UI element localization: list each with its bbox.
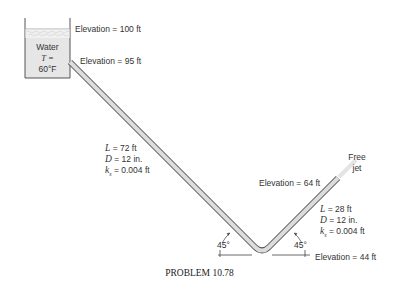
tank-temp-label: T = bbox=[25, 53, 70, 64]
angle-right-label: 45° bbox=[294, 240, 307, 250]
pipe1-diameter: D = 12 in. bbox=[105, 154, 142, 164]
tank-fluid-label: Water bbox=[25, 42, 70, 53]
pipe1-length: L = 72 ft bbox=[105, 143, 137, 153]
free-jet-label-line1: Free bbox=[344, 152, 370, 162]
angle-left-label: 45° bbox=[217, 240, 230, 250]
pipe2-roughness: ks = 0.004 ft bbox=[320, 226, 365, 240]
problem-caption: PROBLEM 10.78 bbox=[0, 268, 399, 278]
elevation-pipe-exit: Elevation = 64 ft bbox=[259, 178, 320, 188]
elevation-pipe-bottom: Elevation = 44 ft bbox=[315, 252, 376, 262]
pipe1-roughness: ks = 0.004 ft bbox=[105, 165, 150, 179]
elevation-water-surface: Elevation = 100 ft bbox=[75, 24, 141, 34]
elevation-pipe-entrance: Elevation = 95 ft bbox=[80, 56, 141, 66]
pipe2-length: L = 28 ft bbox=[320, 204, 352, 214]
free-jet-label-line2: jet bbox=[344, 163, 370, 173]
tank-temp-value: 60°F bbox=[25, 64, 70, 75]
pipe2-diameter: D = 12 in. bbox=[320, 215, 357, 225]
